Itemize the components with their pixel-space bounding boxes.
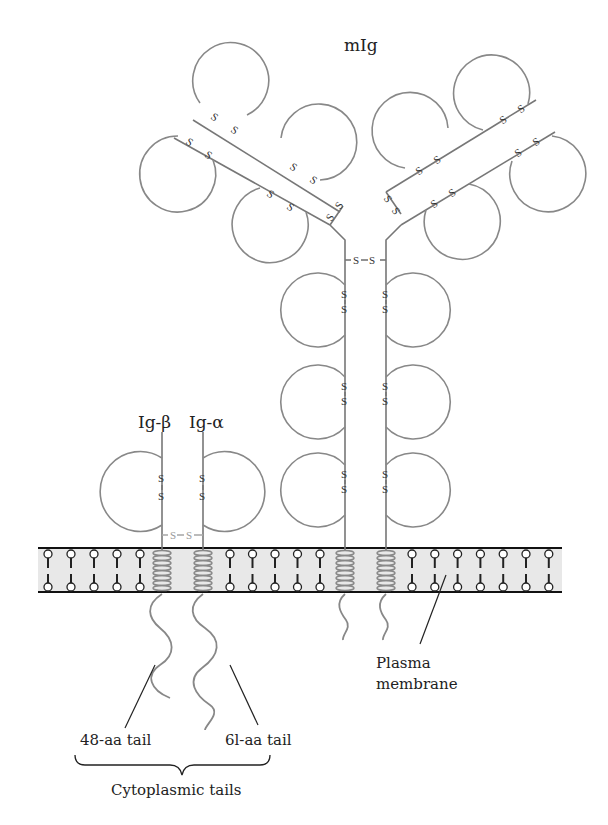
intra-s: S: [382, 395, 388, 407]
intra-s: S: [341, 395, 347, 407]
fab-left-s: S: [288, 160, 300, 173]
fab-left-s: S: [308, 173, 320, 186]
label-cytoplasmic-tails: Cytoplasmic tails: [111, 781, 242, 799]
intra-s: S: [382, 380, 388, 392]
pointer-48aa: [125, 665, 155, 728]
mig-fab-right: S S S S S S S S S S: [372, 55, 586, 259]
mig-left-tail: [339, 594, 348, 640]
pointer-61aa: [230, 665, 258, 725]
intra-s: S: [341, 483, 347, 495]
intra-s: S: [341, 468, 347, 480]
label-ig-beta: Ig-β: [138, 412, 171, 432]
vl-domain-left: [140, 136, 216, 212]
plasma-membrane: [38, 548, 562, 592]
cytoplasmic-tails-brace: [75, 755, 270, 775]
ig-ab-s2: S: [186, 529, 192, 541]
intra-s: S: [382, 483, 388, 495]
cytoplasmic-tails: [150, 594, 388, 730]
vh-domain-left-top: [193, 43, 269, 115]
ig-beta-s2: S: [158, 490, 164, 502]
ch-domain-left-3: [281, 453, 345, 527]
ig-beta-s1: S: [158, 472, 164, 484]
vl-domain-right: [510, 136, 586, 212]
fab-left-s: S: [209, 110, 221, 123]
label-ig-alpha: Ig-α: [189, 412, 224, 432]
label-membrane: membrane: [376, 675, 458, 693]
label-mig: mIg: [344, 35, 378, 55]
fab-right-s: S: [497, 113, 509, 126]
ch-domain-right-2: [386, 365, 450, 439]
cl-domain-right: [424, 184, 500, 259]
ig-beta-alpha-heterodimer: S S S S S S: [100, 432, 265, 550]
intra-s: S: [341, 288, 347, 300]
label-plasma: Plasma: [376, 654, 431, 672]
intra-s: S: [341, 380, 347, 392]
mig-fab-left: S S S S S S S S S S: [140, 43, 357, 263]
vh-domain-right-top: [454, 55, 530, 130]
fab-left-s: S: [184, 135, 196, 148]
ig-alpha-s2: S: [199, 490, 205, 502]
label-48aa-tail: 48-aa tail: [80, 731, 152, 749]
hinge-s1: S: [353, 254, 359, 266]
fab-right-ss2: S: [390, 205, 403, 217]
intra-s: S: [382, 303, 388, 315]
ch-domain-right-3: [386, 453, 450, 527]
mig-right-tail: [380, 594, 388, 640]
ig-beta-tail: [150, 594, 172, 698]
fab-left-ss2: S: [332, 199, 345, 211]
hinge-s2: S: [369, 254, 375, 266]
fab-left-s: S: [285, 200, 297, 213]
intra-s: S: [382, 288, 388, 300]
intra-s: S: [341, 303, 347, 315]
label-61aa-tail: 6l-aa tail: [225, 731, 292, 749]
ch-domain-left-1: [281, 273, 345, 347]
ch-domain-left-2: [281, 365, 345, 439]
ig-ab-s1: S: [170, 529, 176, 541]
fab-right-s: S: [515, 102, 527, 115]
fab-left-s: S: [229, 123, 241, 136]
mig-heavy-chains: S S SSSSSSSSSSSS: [281, 225, 451, 550]
ig-alpha-s1: S: [199, 472, 205, 484]
ig-alpha-domain: [203, 452, 265, 532]
ig-beta-domain: [100, 452, 162, 532]
ch-domain-right-1: [386, 273, 450, 347]
ig-alpha-tail: [193, 594, 217, 730]
intra-s: S: [382, 468, 388, 480]
bcr-diagram: S S SSSSSSSSSSSS S S S S S S S S S S: [0, 0, 608, 825]
